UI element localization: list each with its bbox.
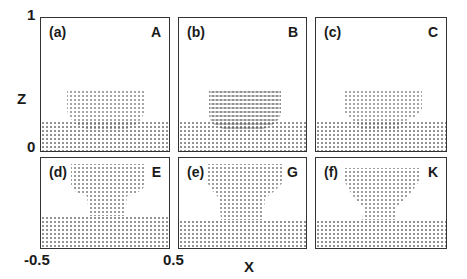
y-tick-0: 0: [27, 138, 35, 155]
solid-region: [316, 220, 446, 248]
panel-f: (f) K: [315, 157, 447, 249]
x-tick-max: 0.5: [163, 251, 184, 268]
solid-region: [316, 121, 446, 151]
panel-c: (c) C: [315, 17, 447, 152]
x-tick-min: -0.5: [24, 251, 50, 268]
panel-b: (b) B: [178, 17, 307, 152]
solid-region: [179, 121, 306, 151]
solid-region: [179, 220, 306, 248]
y-axis-label: Z: [17, 90, 26, 107]
solid-region: [41, 121, 169, 151]
panel-d: (d) E: [40, 157, 170, 249]
panel-a: (a) A: [40, 17, 170, 152]
solid-region: [41, 216, 169, 248]
panel-e: (e) G: [178, 157, 307, 249]
x-axis-label: X: [244, 258, 254, 275]
y-tick-1: 1: [27, 6, 35, 23]
